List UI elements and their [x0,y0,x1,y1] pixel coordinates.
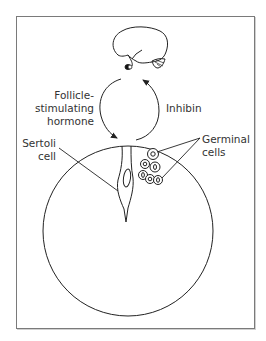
sertoli-leader-line [59,148,118,191]
germinal-cells-icon [139,149,163,185]
inhibin-arrow-icon [136,80,159,140]
brain-icon [113,27,167,70]
fsh-label-line: Follicle- [30,89,94,102]
fsh-label: Follicle- stimulating hormone [30,89,94,128]
germinal-label-line: Germinal [202,133,250,146]
diagram-canvas: Follicle- stimulating hormone Inhibin Se… [0,0,266,341]
fsh-label-line: stimulating [30,102,94,115]
tubule [43,146,213,316]
tubule-circle-icon [43,146,213,316]
sertoli-cell-icon [117,146,133,222]
fsh-label-line: hormone [30,115,94,128]
germinal-label: Germinal cells [202,133,250,159]
diagram-drawing [0,0,266,341]
inhibin-label: Inhibin [166,102,202,115]
sertoli-label-line: Sertoli [14,137,56,150]
sertoli-label: Sertoli cell [14,137,56,163]
germinal-label-line: cells [202,146,250,159]
feedback-cycle [100,79,159,140]
fsh-arrow-icon [100,79,121,138]
sertoli-label-line: cell [14,150,56,163]
